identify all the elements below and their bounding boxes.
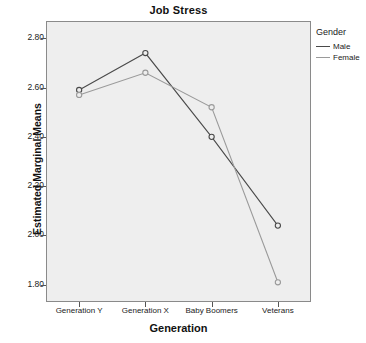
legend-item-female[interactable]: Female (316, 52, 366, 63)
data-point-marker (209, 105, 214, 110)
legend: Gender MaleFemale (316, 27, 366, 63)
data-point-marker (143, 70, 148, 75)
series-male (77, 50, 281, 228)
legend-item-label: Male (333, 42, 350, 51)
data-point-marker (143, 50, 148, 55)
legend-item-male[interactable]: Male (316, 41, 366, 52)
x-axis-title: Generation (46, 322, 311, 334)
data-point-marker (275, 280, 280, 285)
series-line (79, 53, 278, 226)
series-line (79, 73, 278, 283)
series-layer (0, 0, 366, 343)
data-point-marker (209, 134, 214, 139)
legend-item-label: Female (333, 53, 360, 62)
legend-line-icon (316, 57, 330, 58)
data-point-marker (275, 223, 280, 228)
series-female (77, 70, 281, 285)
legend-title: Gender (316, 27, 366, 37)
data-point-marker (77, 92, 82, 97)
legend-entries: MaleFemale (316, 41, 366, 63)
legend-line-icon (316, 46, 330, 47)
job-stress-line-chart: Job Stress Estimated Marginal Means 2.80… (0, 0, 366, 343)
